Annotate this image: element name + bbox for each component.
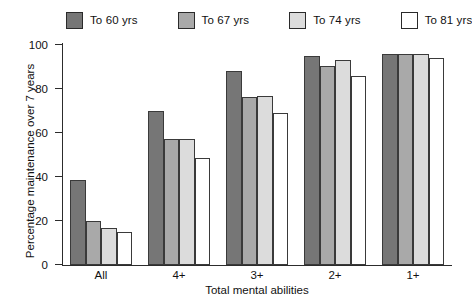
bar — [304, 56, 320, 265]
bar — [398, 54, 414, 265]
y-axis-tick — [55, 264, 63, 265]
x-axis-group-label: 2+ — [328, 269, 341, 281]
bar — [257, 96, 273, 265]
x-axis-group-label: 1+ — [406, 269, 419, 281]
bar — [117, 232, 133, 265]
bar — [86, 221, 102, 265]
x-axis-title: Total mental abilities — [62, 284, 452, 296]
y-axis-title: Percentage maintenance over 7 years — [24, 45, 36, 277]
x-axis-group-label: 4+ — [172, 269, 185, 281]
bar — [70, 180, 86, 265]
bar — [195, 158, 211, 265]
bar — [101, 228, 117, 265]
bar — [273, 113, 289, 265]
y-axis-tick — [55, 132, 63, 133]
bar — [382, 54, 398, 265]
y-axis-tick — [55, 220, 63, 221]
bar — [429, 58, 445, 265]
bar — [164, 139, 180, 266]
y-axis-tick — [55, 176, 63, 177]
bar — [335, 60, 351, 265]
bar — [179, 139, 195, 266]
x-axis-group-label: All — [95, 269, 108, 281]
y-axis-line — [62, 43, 63, 266]
bar — [148, 111, 164, 265]
bar — [242, 97, 258, 265]
bar — [320, 66, 336, 265]
bar — [351, 76, 367, 265]
y-axis-tick — [55, 44, 63, 45]
y-axis-tick — [55, 88, 63, 89]
bar — [226, 71, 242, 265]
x-axis-group-label: 3+ — [250, 269, 263, 281]
bar — [413, 54, 429, 265]
